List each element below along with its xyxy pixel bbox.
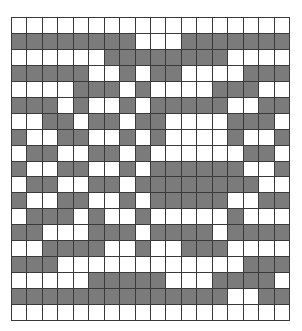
grid-cell-r5-c1[interactable] (12, 82, 26, 97)
grid-cell-r6-c4[interactable] (58, 98, 72, 113)
grid-cell-r17-c6[interactable] (89, 273, 103, 288)
grid-cell-r13-c16[interactable] (244, 209, 258, 224)
grid-cell-r4-c11[interactable] (166, 66, 180, 81)
grid-cell-r16-c4[interactable] (58, 257, 72, 272)
grid-cell-r3-c7[interactable] (105, 50, 119, 65)
grid-cell-r13-c4[interactable] (58, 209, 72, 224)
grid-cell-r9-c1[interactable] (12, 146, 26, 161)
grid-cell-r4-c2[interactable] (27, 66, 41, 81)
grid-cell-r7-c12[interactable] (182, 114, 196, 129)
grid-cell-r15-c7[interactable] (105, 241, 119, 256)
grid-cell-r8-c18[interactable] (275, 130, 289, 145)
grid-cell-r14-c17[interactable] (259, 225, 273, 240)
grid-cell-r11-c15[interactable] (228, 177, 242, 192)
grid-cell-r16-c12[interactable] (182, 257, 196, 272)
grid-cell-r17-c18[interactable] (275, 273, 289, 288)
grid-cell-r2-c4[interactable] (58, 34, 72, 49)
grid-cell-r2-c1[interactable] (12, 34, 26, 49)
grid-cell-r14-c16[interactable] (244, 225, 258, 240)
grid-cell-r19-c13[interactable] (197, 305, 211, 320)
grid-cell-r5-c11[interactable] (166, 82, 180, 97)
grid-cell-r8-c6[interactable] (89, 130, 103, 145)
grid-cell-r2-c13[interactable] (197, 34, 211, 49)
grid-cell-r19-c4[interactable] (58, 305, 72, 320)
grid-cell-r12-c10[interactable] (151, 193, 165, 208)
grid-cell-r10-c1[interactable] (12, 162, 26, 177)
grid-cell-r3-c2[interactable] (27, 50, 41, 65)
grid-cell-r19-c2[interactable] (27, 305, 41, 320)
grid-cell-r7-c10[interactable] (151, 114, 165, 129)
grid-cell-r2-c6[interactable] (89, 34, 103, 49)
grid-cell-r1-c16[interactable] (244, 18, 258, 33)
grid-cell-r5-c10[interactable] (151, 82, 165, 97)
grid-cell-r9-c3[interactable] (43, 146, 57, 161)
grid-cell-r11-c1[interactable] (12, 177, 26, 192)
grid-cell-r12-c2[interactable] (27, 193, 41, 208)
grid-cell-r1-c2[interactable] (27, 18, 41, 33)
grid-cell-r15-c10[interactable] (151, 241, 165, 256)
grid-cell-r13-c6[interactable] (89, 209, 103, 224)
grid-cell-r2-c2[interactable] (27, 34, 41, 49)
grid-cell-r6-c10[interactable] (151, 98, 165, 113)
grid-cell-r14-c10[interactable] (151, 225, 165, 240)
grid-cell-r12-c17[interactable] (259, 193, 273, 208)
grid-cell-r6-c17[interactable] (259, 98, 273, 113)
grid-cell-r8-c10[interactable] (151, 130, 165, 145)
grid-cell-r4-c6[interactable] (89, 66, 103, 81)
grid-cell-r14-c3[interactable] (43, 225, 57, 240)
grid-cell-r12-c8[interactable] (120, 193, 134, 208)
grid-cell-r9-c2[interactable] (27, 146, 41, 161)
grid-cell-r16-c6[interactable] (89, 257, 103, 272)
grid-cell-r15-c8[interactable] (120, 241, 134, 256)
grid-cell-r2-c14[interactable] (213, 34, 227, 49)
grid-cell-r9-c18[interactable] (275, 146, 289, 161)
grid-cell-r3-c18[interactable] (275, 50, 289, 65)
grid-cell-r16-c1[interactable] (12, 257, 26, 272)
grid-cell-r4-c3[interactable] (43, 66, 57, 81)
grid-cell-r10-c7[interactable] (105, 162, 119, 177)
grid-cell-r6-c2[interactable] (27, 98, 41, 113)
grid-cell-r16-c17[interactable] (259, 257, 273, 272)
grid-cell-r3-c5[interactable] (74, 50, 88, 65)
grid-cell-r17-c2[interactable] (27, 273, 41, 288)
grid-cell-r8-c7[interactable] (105, 130, 119, 145)
grid-cell-r8-c4[interactable] (58, 130, 72, 145)
grid-cell-r18-c2[interactable] (27, 289, 41, 304)
grid-cell-r16-c10[interactable] (151, 257, 165, 272)
grid-cell-r4-c1[interactable] (12, 66, 26, 81)
grid-cell-r3-c1[interactable] (12, 50, 26, 65)
grid-cell-r16-c5[interactable] (74, 257, 88, 272)
grid-cell-r9-c7[interactable] (105, 146, 119, 161)
grid-cell-r12-c1[interactable] (12, 193, 26, 208)
grid-cell-r2-c11[interactable] (166, 34, 180, 49)
grid-cell-r10-c4[interactable] (58, 162, 72, 177)
grid-cell-r12-c12[interactable] (182, 193, 196, 208)
grid-cell-r18-c10[interactable] (151, 289, 165, 304)
grid-cell-r16-c16[interactable] (244, 257, 258, 272)
grid-cell-r17-c8[interactable] (120, 273, 134, 288)
grid-cell-r13-c8[interactable] (120, 209, 134, 224)
grid-cell-r13-c14[interactable] (213, 209, 227, 224)
grid-cell-r1-c13[interactable] (197, 18, 211, 33)
grid-cell-r4-c8[interactable] (120, 66, 134, 81)
grid-cell-r8-c17[interactable] (259, 130, 273, 145)
grid-cell-r14-c1[interactable] (12, 225, 26, 240)
grid-cell-r2-c10[interactable] (151, 34, 165, 49)
grid-cell-r2-c16[interactable] (244, 34, 258, 49)
grid-cell-r13-c7[interactable] (105, 209, 119, 224)
grid-cell-r11-c16[interactable] (244, 177, 258, 192)
grid-cell-r15-c18[interactable] (275, 241, 289, 256)
grid-cell-r19-c6[interactable] (89, 305, 103, 320)
grid-cell-r18-c14[interactable] (213, 289, 227, 304)
grid-cell-r4-c12[interactable] (182, 66, 196, 81)
grid-cell-r6-c14[interactable] (213, 98, 227, 113)
grid-cell-r8-c13[interactable] (197, 130, 211, 145)
grid-cell-r10-c16[interactable] (244, 162, 258, 177)
grid-cell-r7-c9[interactable] (136, 114, 150, 129)
grid-cell-r8-c16[interactable] (244, 130, 258, 145)
grid-cell-r1-c10[interactable] (151, 18, 165, 33)
grid-cell-r10-c3[interactable] (43, 162, 57, 177)
grid-cell-r11-c3[interactable] (43, 177, 57, 192)
grid-cell-r12-c14[interactable] (213, 193, 227, 208)
grid-cell-r3-c10[interactable] (151, 50, 165, 65)
